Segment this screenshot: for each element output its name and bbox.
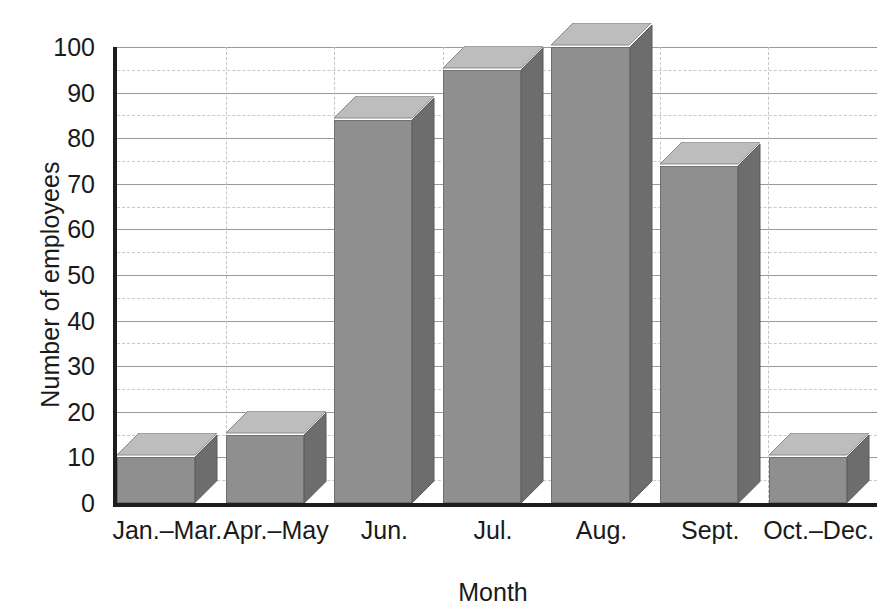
x-axis-tick-label: Jun. [361,516,408,545]
y-axis-tick-label: 80 [67,124,95,153]
bar-front-face [334,120,412,503]
bar-front-face [660,166,738,503]
y-axis-title: Number of employees [36,75,65,495]
bar-front-face [117,457,195,503]
y-axis-tick-label: 90 [67,78,95,107]
bar-front-face [551,47,629,503]
bar[interactable] [660,144,760,503]
bar[interactable] [551,25,651,503]
y-axis-tick-label: 30 [67,352,95,381]
x-axis-title: Month [113,578,873,607]
bar-top-face [660,142,760,166]
y-axis-tick-label: 50 [67,261,95,290]
bar-front-face [226,435,304,503]
y-axis-tick-label: 0 [81,489,95,518]
y-axis-tick-label: 40 [67,306,95,335]
bar-side-face [738,144,762,503]
bar[interactable] [334,98,434,503]
bar-side-face [521,48,545,503]
bar-top-face [769,433,869,457]
bar[interactable] [117,435,217,503]
bar-side-face [412,98,436,503]
bar[interactable] [443,48,543,503]
bar-front-face [443,70,521,503]
bar-top-face [226,411,326,435]
bar[interactable] [769,435,869,503]
y-axis-tick-label: 60 [67,215,95,244]
x-axis-tick-label: Jul. [474,516,513,545]
bar-chart: Number of employees 01020304050607080901… [0,0,877,616]
y-axis-tick-label: 100 [53,33,95,62]
bar-top-face [443,46,543,70]
bar-top-face [551,23,651,47]
x-axis-tick-label: Oct.–Dec. [763,516,874,545]
y-axis-tick-label: 20 [67,397,95,426]
x-axis-tick-label: Sept. [681,516,739,545]
y-axis-tick-label: 10 [67,443,95,472]
x-axis-tick-label: Apr.–May [223,516,329,545]
bar-front-face [769,457,847,503]
bar-top-face [117,433,217,457]
x-axis-tick-label: Aug. [576,516,627,545]
x-axis-tick-labels: Jan.–Mar.Apr.–MayJun.Jul.Aug.Sept.Oct.–D… [113,516,873,556]
bar[interactable] [226,413,326,503]
bars-layer [113,47,873,503]
bar-top-face [334,96,434,120]
y-axis-tick-label: 70 [67,169,95,198]
bar-side-face [630,25,654,503]
x-axis-tick-label: Jan.–Mar. [112,516,222,545]
